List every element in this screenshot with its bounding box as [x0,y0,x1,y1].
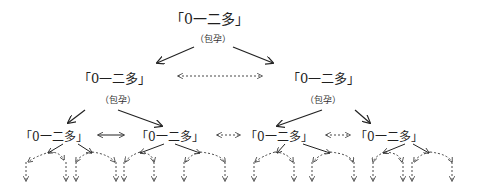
l3-node-2: 「0一二多」 [136,127,204,144]
l2-left-note: （包孕） [100,93,136,106]
tree-arrows [0,0,479,194]
l3-node-1: 「0一二多」 [20,127,88,144]
dashed-down-arrows [26,162,452,181]
dashed-recursion-arrows [28,152,452,162]
l2-branch-arrows [68,110,370,126]
l3-node-4: 「0一二多」 [355,127,423,144]
root-node: 「0一二多」 [170,8,249,28]
l2-right-node: 「0一二多」 [287,68,360,87]
l3-branch-arrows [48,144,429,153]
root-note: （包孕） [195,32,231,45]
l2-right-note: （包孕） [305,93,341,106]
l3-node-3: 「0一二多」 [245,127,313,144]
root-branch-arrows [157,47,273,63]
l2-left-node: 「0一二多」 [78,68,151,87]
